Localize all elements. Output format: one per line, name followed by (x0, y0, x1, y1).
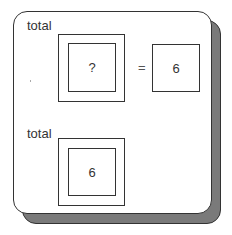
top-total-label: total (27, 18, 52, 33)
top-result-box: 6 (152, 44, 200, 92)
stray-mark (30, 80, 31, 82)
bottom-total-label: total (27, 126, 52, 141)
bottom-value-box: 6 (68, 148, 116, 196)
top-unknown-box: ? (68, 43, 116, 92)
equals-sign: = (138, 60, 146, 75)
